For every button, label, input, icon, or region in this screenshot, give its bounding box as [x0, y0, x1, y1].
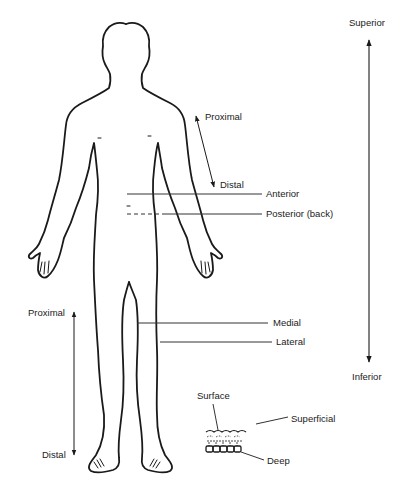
anatomical-directions-diagram: Superior Inferior Proximal Distal Anteri… [0, 0, 404, 481]
surface-pointer [213, 404, 218, 430]
arm-distal-label: Distal [220, 180, 244, 190]
arm-proximal-distal-arrow [196, 116, 214, 187]
deep-label: Deep [267, 456, 290, 466]
superficial-pointer [256, 417, 288, 424]
surface-label: Surface [197, 391, 230, 401]
leg-distal-label: Distal [42, 450, 66, 460]
superficial-label: Superficial [291, 414, 335, 424]
human-body-outline [29, 23, 222, 473]
medial-label: Medial [273, 318, 301, 328]
posterior-label: Posterior (back) [266, 209, 333, 219]
arm-proximal-label: Proximal [205, 112, 242, 122]
inferior-label: Inferior [352, 372, 382, 382]
lateral-label: Lateral [276, 337, 305, 347]
anterior-label: Anterior [266, 189, 299, 199]
skin-layers-inset [206, 404, 288, 460]
deep-pointer [241, 452, 264, 460]
superior-label: Superior [349, 18, 385, 28]
leg-proximal-label: Proximal [28, 308, 65, 318]
diagram-canvas [0, 0, 404, 481]
